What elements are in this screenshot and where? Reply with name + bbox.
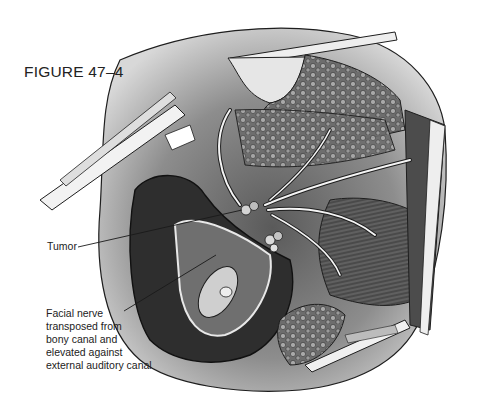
facial-nerve-label: Facial nerve transposed from bony canal …	[46, 307, 166, 372]
figure-number: FIGURE 47–4	[24, 63, 124, 81]
facial-nerve-label-line: Facial nerve	[46, 307, 166, 320]
facial-nerve-label-line: transposed from	[46, 320, 166, 333]
facial-nerve-label-line: elevated against	[46, 346, 166, 359]
tumor-label: Tumor	[47, 240, 77, 253]
facial-nerve-label-line: external auditory canal	[46, 359, 166, 372]
facial-nerve-label-line: bony canal and	[46, 333, 166, 346]
